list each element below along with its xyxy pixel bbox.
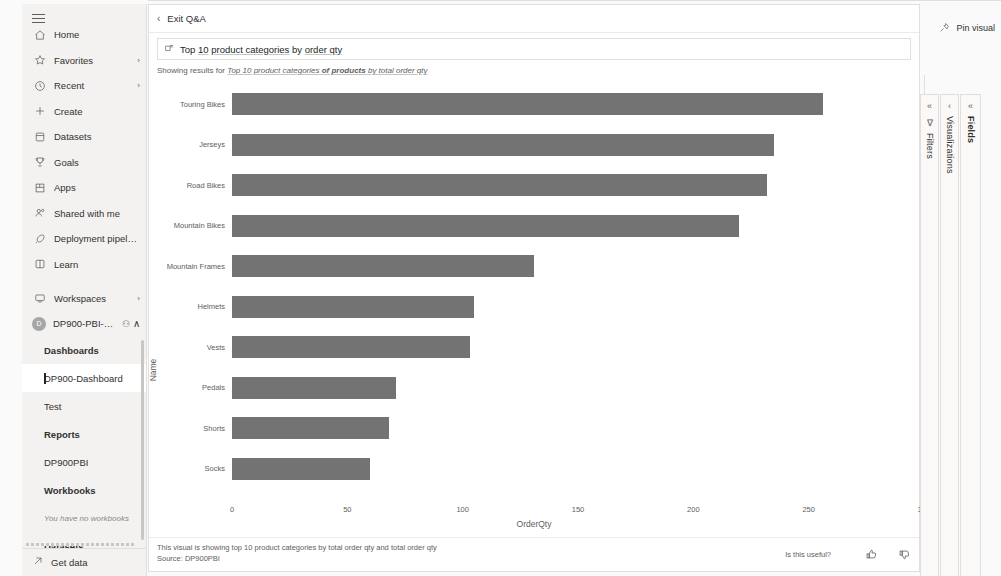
tree-item-dashboards[interactable]: Dashboards [22, 336, 146, 364]
qa-query-text: Top 10 product categories by order qty [180, 44, 342, 55]
query-term-entity: product categories [211, 44, 289, 55]
sidebar-item-deployment-pipelines[interactable]: Deployment pipelines [22, 226, 146, 251]
bar-row[interactable]: Road Bikes [149, 174, 919, 196]
tree-horizontal-scrollbar[interactable] [26, 543, 134, 546]
left-navigation-sidebar: Home Favorites › Recent › Create [22, 4, 147, 576]
pin-visual-button[interactable]: Pin visual [939, 22, 995, 33]
tree-item-test[interactable]: Test [22, 392, 146, 420]
filters-panel-collapsed[interactable]: « ∇ Filters [920, 94, 939, 576]
tree-empty-workbooks-message: You have no workbooks [22, 504, 146, 532]
bar[interactable] [232, 336, 470, 358]
showing-results-text: Showing results for Top 10 product categ… [149, 60, 919, 75]
expand-icon[interactable]: « [968, 101, 973, 111]
bar-category-label: Jerseys [149, 140, 232, 149]
arrow-up-right-icon [32, 555, 44, 569]
bar-row[interactable]: Helmets [149, 296, 919, 318]
bar-category-label: Road Bikes [149, 181, 232, 190]
bar[interactable] [232, 174, 767, 196]
thumbs-down-icon[interactable] [898, 548, 911, 561]
apps-grid-icon [32, 180, 47, 195]
thumbs-up-icon[interactable] [865, 548, 878, 561]
exit-qa-label: Exit Q&A [167, 13, 206, 24]
expand-icon[interactable]: « [927, 101, 932, 111]
bar-chart: Name Touring BikesJerseysRoad BikesMount… [149, 75, 919, 537]
x-axis-tick-label: 50 [343, 505, 351, 514]
plus-icon [32, 104, 47, 119]
bar-category-label: Vests [149, 343, 232, 352]
bar-row[interactable]: Pedals [149, 377, 919, 399]
sidebar-item-label: Create [54, 106, 138, 117]
expand-icon[interactable]: ‹ [948, 101, 951, 111]
exit-qa-button[interactable]: ‹ Exit Q&A [157, 13, 206, 24]
fields-panel-collapsed[interactable]: « Fields [960, 94, 981, 576]
sidebar-item-label: Goals [54, 157, 138, 168]
sidebar-item-shared-with-me[interactable]: Shared with me [22, 200, 146, 225]
sidebar-item-recent[interactable]: Recent › [22, 73, 146, 98]
x-axis-tick-label: 100 [456, 505, 469, 514]
tree-item-dp900-dashboard[interactable]: DP900-Dashboard [22, 364, 146, 392]
x-axis-title: OrderQty [149, 519, 919, 529]
power-bi-qa-page: Home Favorites › Recent › Create [0, 0, 1001, 576]
tree-item-workbooks[interactable]: Workbooks [22, 476, 146, 504]
sidebar-item-goals[interactable]: Goals [22, 149, 146, 174]
active-workspace-row[interactable]: D DP900-PBI-Work... ⚇ ∧ [22, 311, 146, 336]
bar[interactable] [232, 296, 474, 318]
bar[interactable] [232, 377, 396, 399]
bar-category-label: Pedals [149, 383, 232, 392]
x-axis-tick-label: 0 [230, 505, 234, 514]
sidebar-item-label: Apps [54, 182, 138, 193]
bar[interactable] [232, 417, 389, 439]
sidebar-item-label: Shared with me [54, 208, 138, 219]
sidebar-item-label: Home [54, 29, 138, 40]
get-data-button[interactable]: Get data [22, 548, 146, 576]
avatar: D [32, 317, 46, 331]
query-prefix: Top [180, 44, 198, 55]
sidebar-item-apps[interactable]: Apps [22, 175, 146, 200]
feedback-question: Is this useful? [785, 550, 831, 559]
bar[interactable] [232, 255, 534, 277]
bar-row[interactable]: Shorts [149, 417, 919, 439]
tree-item-label: DP900PBI [44, 457, 88, 468]
feedback-area: Is this useful? [785, 548, 911, 561]
workspace-badge-icon: ⚇ [122, 319, 130, 329]
bar[interactable] [232, 458, 370, 480]
visualizations-panel-collapsed[interactable]: ‹ Visualizations [940, 94, 959, 576]
bar-row[interactable]: Vests [149, 336, 919, 358]
bar-row[interactable]: Mountain Bikes [149, 215, 919, 237]
bar-row[interactable]: Touring Bikes [149, 93, 919, 115]
sidebar-item-favorites[interactable]: Favorites › [22, 47, 146, 72]
sidebar-item-home[interactable]: Home [22, 22, 146, 47]
visual-description: This visual is showing top 10 product ca… [157, 543, 437, 565]
sidebar-item-label: Recent [54, 80, 135, 91]
qa-query-input[interactable]: Top 10 product categories by order qty [157, 38, 911, 60]
book-icon [32, 257, 47, 272]
sidebar-item-label: Deployment pipelines [54, 233, 138, 244]
pin-visual-label: Pin visual [956, 23, 995, 33]
sidebar-item-datasets[interactable]: Datasets [22, 124, 146, 149]
bar[interactable] [232, 215, 739, 237]
tree-item-label: Workbooks [44, 485, 96, 496]
chevron-up-icon[interactable]: ∧ [133, 318, 140, 329]
bar-category-label: Shorts [149, 424, 232, 433]
sidebar-item-create[interactable]: Create [22, 98, 146, 123]
qa-box-icon [164, 44, 174, 54]
x-axis-tick-label: 150 [572, 505, 585, 514]
tree-vertical-scrollbar[interactable] [141, 340, 144, 540]
bar-row[interactable]: Jerseys [149, 134, 919, 156]
bar-row[interactable]: Mountain Frames [149, 255, 919, 277]
tree-item-reports[interactable]: Reports [22, 420, 146, 448]
sidebar-item-label: Datasets [54, 131, 138, 142]
bar[interactable] [232, 93, 823, 115]
bar-row[interactable]: Socks [149, 458, 919, 480]
filters-panel-label: Filters [925, 133, 935, 159]
bar-category-label: Touring Bikes [149, 100, 232, 109]
qa-header: ‹ Exit Q&A [149, 5, 919, 33]
pin-icon [939, 22, 950, 33]
sidebar-item-workspaces[interactable]: Workspaces › [22, 285, 146, 310]
tree-item-label: Dashboards [44, 345, 99, 356]
tree-item-dp900pbi[interactable]: DP900PBI [22, 448, 146, 476]
hamburger-menu-button[interactable] [22, 4, 146, 22]
workspace-icon [32, 291, 47, 306]
sidebar-item-learn[interactable]: Learn [22, 251, 146, 276]
bar[interactable] [232, 134, 774, 156]
